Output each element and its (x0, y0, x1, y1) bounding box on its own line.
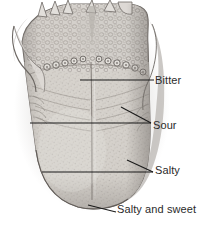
label-sour: Sour (153, 119, 177, 131)
tongue-illustration (0, 0, 202, 226)
label-salty-and-sweet: Salty and sweet (117, 203, 196, 215)
label-salty: Salty (155, 164, 180, 176)
label-bitter: Bitter (155, 74, 181, 86)
tongue-taste-map-figure: Bitter Sour Salty Salty and sweet (0, 0, 202, 226)
